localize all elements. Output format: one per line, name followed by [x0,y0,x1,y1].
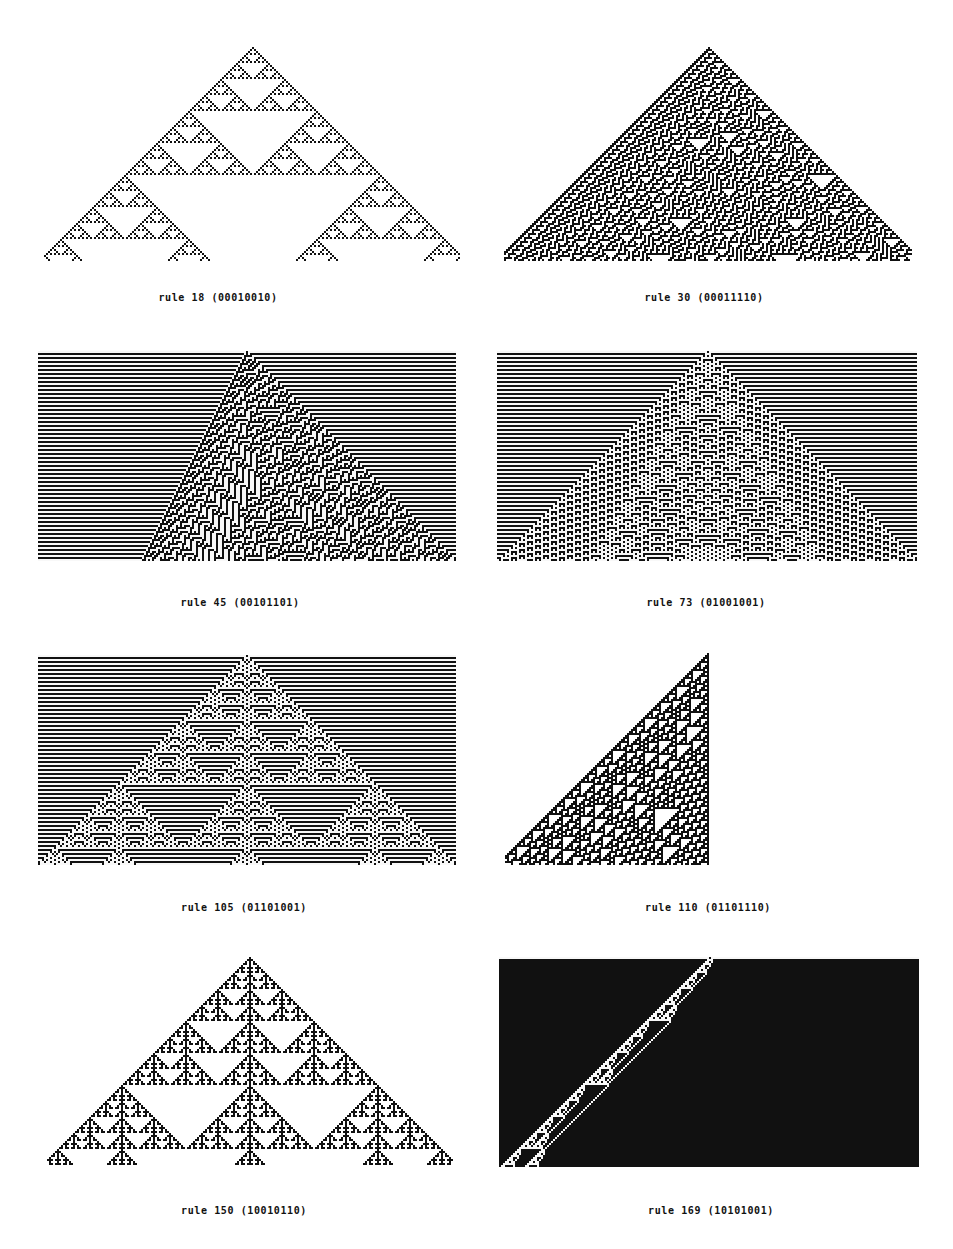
caption-rule-105: rule 105 (01101001) [181,902,307,913]
ca-pattern-image [497,351,917,561]
caption-rule-73: rule 73 (01001001) [646,597,765,608]
ca-pattern-image [38,655,456,865]
panel-rule-30 [504,47,912,261]
panel-rule-18 [44,47,460,261]
caption-rule-169: rule 169 (10101001) [648,1205,774,1216]
panel-rule-150 [47,957,454,1166]
panel-rule-105 [38,655,456,865]
caption-rule-110: rule 110 (01101110) [645,902,771,913]
ca-pattern-image [44,47,460,261]
ca-pattern-image [47,957,453,1165]
panel-rule-73 [497,351,918,562]
ca-pattern-image [504,47,912,261]
caption-rule-150: rule 150 (10010110) [181,1205,307,1216]
caption-rule-30: rule 30 (00011110) [644,292,763,303]
panel-rule-169 [499,957,920,1167]
panel-rule-110 [505,653,710,865]
caption-rule-18: rule 18 (00010010) [158,292,277,303]
ca-pattern-image [505,653,709,865]
caption-rule-45: rule 45 (00101101) [180,597,299,608]
ca-pattern-image [499,957,919,1167]
ca-pattern-image [38,351,456,561]
panel-rule-45 [38,351,456,562]
